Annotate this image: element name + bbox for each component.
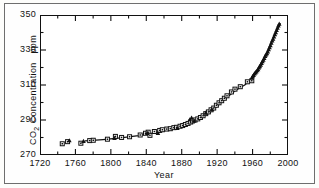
x-tick-label: 1800 xyxy=(100,158,121,168)
ice-core-square-markers xyxy=(60,79,254,146)
data-point-triangle xyxy=(277,22,282,26)
y-tick-label: 350 xyxy=(2,10,36,19)
x-tick-label: 1960 xyxy=(242,158,263,168)
x-tick-label: 1840 xyxy=(136,158,157,168)
y-tick-label: 290 xyxy=(2,115,36,124)
data-point-square-center xyxy=(240,86,242,88)
data-point-square-center xyxy=(93,140,95,142)
data-point-square-center xyxy=(154,131,156,133)
data-point-square-center xyxy=(162,129,164,131)
y-tick-label: 310 xyxy=(2,80,36,89)
x-tick-label: 1760 xyxy=(65,158,86,168)
x-tick-label: 2000 xyxy=(277,158,298,168)
data-point-square-center xyxy=(231,91,233,93)
data-point-square-center xyxy=(247,81,249,83)
data-point-square-center xyxy=(80,142,82,144)
data-point-square-center xyxy=(62,143,64,145)
x-axis-tick-labels: 17201760180018401880192019602000 xyxy=(40,158,288,170)
data-point-square-center xyxy=(251,80,253,82)
data-point-square-center xyxy=(89,140,91,142)
x-tick-label: 1880 xyxy=(171,158,192,168)
x-tick-label: 1720 xyxy=(29,158,50,168)
y-tick-label: 330 xyxy=(2,45,36,54)
plot-area xyxy=(40,15,288,155)
data-point-square-center xyxy=(129,136,131,138)
data-point-square-center xyxy=(166,128,168,130)
figure-container: CO2 Concentration ppm 270290310330350 17… xyxy=(0,0,319,188)
data-point-square-center xyxy=(121,137,123,139)
x-tick-label: 1920 xyxy=(207,158,228,168)
x-axis-title: Year xyxy=(40,170,288,180)
data-point-square-center xyxy=(226,95,228,97)
chart-data-layer xyxy=(41,16,289,156)
data-point-square-center xyxy=(170,128,172,130)
data-point-square-center xyxy=(139,134,141,136)
data-point-square-center xyxy=(234,88,236,90)
data-point-square-center xyxy=(107,138,109,140)
